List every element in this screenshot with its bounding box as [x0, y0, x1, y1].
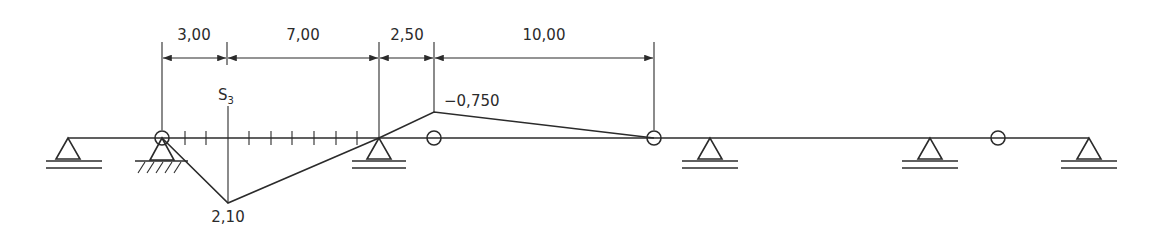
- support-roller-1: [46, 138, 102, 168]
- section-label: S3: [218, 86, 234, 106]
- support-roller-5: [1061, 138, 1117, 168]
- influence-line-diagram: 3,00 7,00 2,50 10,00 S3 2,10 −0,750: [0, 0, 1159, 240]
- dimension-label-3: 2,50: [390, 26, 423, 44]
- support-roller-2: [352, 138, 406, 168]
- dimension-label-1: 3,00: [177, 26, 210, 44]
- influence-line: [162, 112, 654, 203]
- ordinate-label-negative: −0,750: [444, 92, 500, 110]
- support-roller-3: [682, 138, 738, 168]
- dimension-label-4: 10,00: [523, 26, 566, 44]
- support-roller-4: [902, 138, 958, 168]
- ordinate-label-positive: 2,10: [211, 208, 244, 226]
- dimension-label-2: 7,00: [286, 26, 319, 44]
